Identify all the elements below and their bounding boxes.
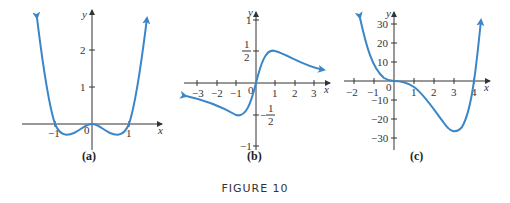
tick-y-20: 20	[377, 37, 389, 49]
panel-label-b: (b)	[247, 149, 262, 163]
tick-x-3: 3	[451, 86, 457, 98]
x-axis-label: x	[483, 81, 489, 93]
figure-10: −1 0 1 1 2 x y (a) −3 −2 −1 0 1 2 3 1 1 …	[0, 0, 510, 203]
tick-x-1: 1	[272, 87, 278, 99]
y-axis-label: y	[247, 6, 253, 18]
tick-y-2: 2	[80, 44, 86, 56]
panel-label-a: (a)	[82, 149, 96, 163]
tick-y-neghalf-num: 1	[268, 102, 274, 114]
tick-y-half-num: 1	[244, 38, 250, 50]
tick-y-neg20: −20	[371, 113, 389, 125]
tick-x-neg2: −2	[211, 87, 223, 99]
x-axis-label: x	[323, 83, 329, 95]
tick-x-2: 2	[292, 87, 298, 99]
chart-a: −1 0 1 1 2 x y (a)	[22, 8, 163, 163]
tick-x-neg1: −1	[230, 87, 242, 99]
tick-y-half-den: 2	[244, 51, 250, 63]
tick-y-neghalf-den: 2	[268, 115, 274, 127]
tick-x-0: 0	[386, 81, 392, 93]
tick-y-neg30: −30	[371, 132, 389, 144]
chart-b: −3 −2 −1 0 1 2 3 1 1 2 − 1 2 −1 x y (b)	[184, 6, 330, 163]
tick-x-3: 3	[311, 87, 317, 99]
x-axis-label: x	[157, 124, 163, 136]
tick-x-2: 2	[431, 86, 437, 98]
tick-y-30: 30	[377, 18, 389, 30]
tick-x-neg2: −2	[346, 86, 358, 98]
y-axis-label: y	[385, 7, 391, 19]
tick-y-1: 1	[80, 81, 86, 93]
tick-y-10: 10	[377, 56, 389, 68]
figure-caption: FIGURE 10	[0, 182, 510, 195]
panel-label-c: (c)	[410, 149, 423, 163]
chart-c: −2 −1 0 1 2 3 4 30 20 10 −10 −20 −30 x y…	[344, 7, 490, 163]
tick-y-neg10: −10	[371, 94, 389, 106]
tick-y-neg-sign: −	[260, 109, 266, 121]
y-axis-label: y	[81, 8, 87, 20]
